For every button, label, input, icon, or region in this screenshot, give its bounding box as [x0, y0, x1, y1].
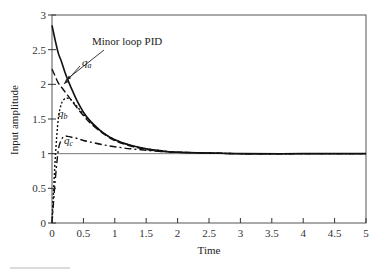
y-tick-label: 1.5	[32, 113, 46, 125]
x-tick-label: 2	[175, 227, 181, 239]
annotation-q-a: qa	[82, 56, 92, 70]
x-axis-label: Time	[198, 244, 221, 256]
x-tick-label: 0.5	[77, 227, 91, 239]
annotation-minor-loop-pid: Minor loop PID	[92, 35, 162, 47]
y-tick-label: 2.5	[32, 44, 46, 56]
x-tick-label: 3	[238, 227, 244, 239]
series-q_b	[52, 98, 366, 223]
line-chart: 00.511.522.533.544.55 00.511.522.53 Mino…	[0, 0, 382, 270]
x-tick-label: 1	[112, 227, 118, 239]
y-tick-label: 0	[41, 217, 47, 229]
annotations: Minor loop PIDqaqbqc	[58, 35, 162, 148]
annotation-q-b: qb	[58, 107, 68, 121]
x-tick-label: 1.5	[139, 227, 153, 239]
y-tick-label: 3	[41, 9, 47, 21]
y-tick-label: 1	[41, 148, 47, 160]
x-tick-label: 3.5	[265, 227, 279, 239]
x-tick-label: 5	[363, 227, 369, 239]
x-tick-label: 4.5	[328, 227, 342, 239]
x-tick-label: 2.5	[202, 227, 216, 239]
annotation-q-c: qc	[64, 134, 74, 148]
series-q_c	[52, 136, 366, 223]
y-tick-label: 0.5	[32, 182, 46, 194]
y-tick-label: 2	[41, 78, 47, 90]
series-lines	[52, 25, 366, 223]
x-axis-ticks: 00.511.522.533.544.55	[49, 218, 369, 239]
x-tick-label: 4	[300, 227, 306, 239]
x-tick-label: 0	[49, 227, 55, 239]
y-axis-label: Input amplitude	[8, 85, 20, 155]
series-q_a	[52, 69, 366, 154]
